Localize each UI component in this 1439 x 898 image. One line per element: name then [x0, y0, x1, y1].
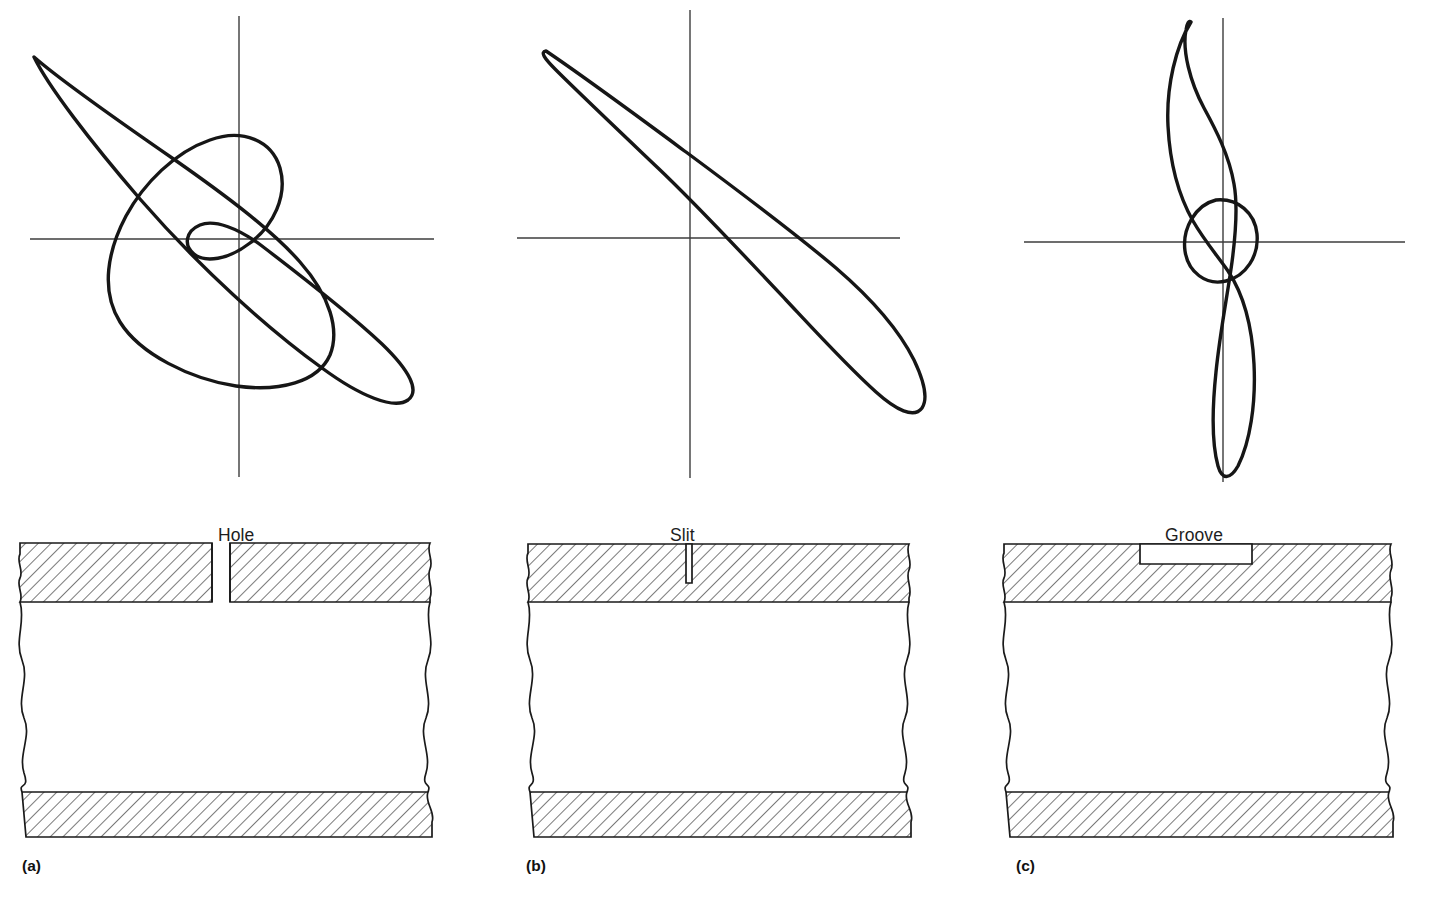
- bore-right-break-c: [1384, 602, 1391, 792]
- tube-section-a: [0, 530, 500, 870]
- defect-label-a: Hole: [218, 527, 254, 545]
- bottom-wall-fill-a: [22, 792, 433, 837]
- signal-trace-b: [543, 51, 925, 413]
- defect-label-c: Groove: [1165, 527, 1223, 545]
- bottom-wall-fill-c: [1006, 792, 1394, 837]
- bore-right-break-b: [902, 602, 909, 792]
- figure-root: Hole (a) Slit (b): [0, 0, 1439, 898]
- signal-trace-a: [34, 57, 413, 403]
- panel-caption-b: (b): [526, 857, 546, 875]
- impedance-plot-a: [0, 0, 500, 500]
- bore-right-break-a: [423, 602, 430, 792]
- panel-c: Groove (c): [980, 0, 1439, 898]
- impedance-plot-c: [980, 0, 1439, 500]
- signal-trace-c: [1168, 21, 1255, 476]
- bottom-wall-fill-b: [530, 792, 912, 837]
- signal-inner-loop-c: [1185, 200, 1258, 282]
- tube-section-b: [500, 530, 980, 870]
- top-wall-fill-b: [527, 544, 910, 602]
- top-wall-right-fill-a: [230, 543, 431, 602]
- tube-section-c: [980, 530, 1439, 870]
- top-wall-left-fill-a: [19, 543, 212, 602]
- bore-left-break-a: [19, 602, 26, 792]
- defect-label-b: Slit: [670, 527, 695, 545]
- impedance-plot-b: [500, 0, 980, 500]
- slit-notch-b: [686, 544, 692, 583]
- bore-left-break-b: [527, 602, 534, 792]
- panel-caption-a: (a): [22, 857, 41, 875]
- bore-left-break-c: [1003, 602, 1010, 792]
- panel-a: Hole (a): [0, 0, 500, 898]
- groove-recess-c: [1140, 544, 1252, 564]
- panel-caption-c: (c): [1016, 857, 1035, 875]
- panel-b: Slit (b): [500, 0, 980, 898]
